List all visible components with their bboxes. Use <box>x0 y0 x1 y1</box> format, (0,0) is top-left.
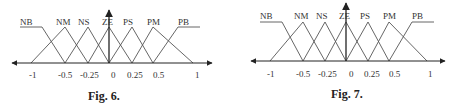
fig-6-mf-ps <box>109 27 153 63</box>
fig-7-chart: NB NM NS ZE PS PM PB -1 -0.5 -0.25 0 0.2… <box>251 3 445 79</box>
fig-6-mf-nm <box>31 27 88 63</box>
fig-7-tick-025: 0.25 <box>364 69 380 79</box>
fig-7-tick-neg025: -0.25 <box>318 69 337 79</box>
fig-6-tick-05: 0.5 <box>153 70 165 80</box>
fig-7-tick-05: 0.5 <box>389 69 401 79</box>
fig-6-label-pm: PM <box>147 17 160 27</box>
fig-7-tick-1: 1 <box>428 69 433 79</box>
fig-6-label-nm: NM <box>56 17 71 27</box>
fig-6-label-ns: NS <box>78 17 90 27</box>
fig-6-mf-pb <box>153 27 200 63</box>
fig-6-label-nb: NB <box>20 17 33 27</box>
fig-7-tick-0: 0 <box>349 69 354 79</box>
fig-6-chart: NB NM NS ZE PS PM PB -1 -0.5 -0.25 0 0.2… <box>12 10 212 80</box>
fig-6-tick-neg025: -0.25 <box>80 70 99 80</box>
fig-7-label-ns: NS <box>316 11 328 21</box>
fig-7-mf-ns <box>303 22 346 61</box>
figure-canvas: NB NM NS ZE PS PM PB -1 -0.5 -0.25 0 0.2… <box>0 0 456 111</box>
fig-6-tick-neg1: -1 <box>29 70 37 80</box>
fig-7-label-ps: PS <box>360 11 370 21</box>
fig-6-tick-neg05: -0.5 <box>58 70 73 80</box>
fig-7-label-ze: ZE <box>339 11 350 21</box>
fig-6-label-ps: PS <box>123 17 133 27</box>
fig-7-tick-neg05: -0.5 <box>296 69 311 79</box>
fig-7-tick-neg1: -1 <box>267 69 275 79</box>
fig-7-label-pb: PB <box>412 11 423 21</box>
fig-6-tick-1: 1 <box>195 70 200 80</box>
fig-6-label-pb: PB <box>178 17 189 27</box>
fig-6-mf-nb <box>20 27 65 63</box>
fig-6-tick-0: 0 <box>111 70 116 80</box>
fig-6-mf-pm <box>132 27 193 63</box>
fig-6-caption: Fig. 6. <box>88 89 120 104</box>
fig-7-label-nm: NM <box>294 11 309 21</box>
fig-6-mf-ns <box>65 27 109 63</box>
fig-7-mf-nm <box>270 22 325 61</box>
fig-7-caption: Fig. 7. <box>331 87 363 102</box>
fig-7-mf-pm <box>368 22 427 61</box>
fig-7-membership-lines <box>260 22 434 61</box>
fig-6-tick-025: 0.25 <box>127 70 143 80</box>
fig-7-mf-pb <box>389 22 434 61</box>
fig-7-mf-nb <box>260 22 303 61</box>
fig-7-label-nb: NB <box>260 11 273 21</box>
fig-7-mf-ps <box>346 22 389 61</box>
fig-7-label-pm: PM <box>383 11 396 21</box>
fig-6-label-ze: ZE <box>102 17 113 27</box>
fig-6-membership-lines <box>20 27 200 63</box>
fig-6-mf-ze <box>88 27 132 63</box>
